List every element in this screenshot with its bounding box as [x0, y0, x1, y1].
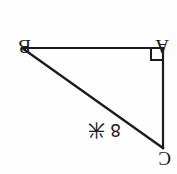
- triangle-drawing: [0, 0, 177, 174]
- vertex-label-a: A: [155, 37, 169, 56]
- geometry-figure: A B C 8米: [0, 0, 177, 174]
- vertex-label-b: B: [18, 37, 31, 56]
- hypotenuse-measure-unit: 米: [88, 120, 105, 140]
- hypotenuse-measure-value: 8: [110, 120, 121, 140]
- vertex-label-c: C: [158, 149, 171, 168]
- hypotenuse-measure-label: 8米: [88, 121, 121, 138]
- scanned-sheet: A B C 8米: [0, 0, 177, 174]
